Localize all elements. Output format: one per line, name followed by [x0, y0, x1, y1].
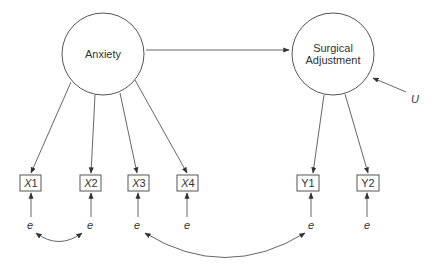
indicator-x2: X2 [80, 175, 101, 191]
indicator-y1: Y1 [297, 175, 319, 191]
anxiety-node: Anxiety [62, 13, 144, 95]
error-label-y2: e [364, 219, 370, 231]
disturbance-label: U [411, 93, 419, 105]
indicator-x1: X1 [20, 175, 41, 191]
surgical-label-line1: Surgical [313, 42, 353, 54]
indicator-x4: X4 [177, 175, 198, 191]
disturbance-arrow [373, 78, 406, 92]
error-label-x4: e [184, 219, 190, 231]
anxiety-label: Anxiety [85, 48, 122, 60]
path-diagram: Anxiety Surgical Adjustment U X1 X2 X3 X… [0, 0, 437, 266]
loading-arrow-y2 [345, 94, 368, 173]
error-label-x2: e [87, 219, 93, 231]
error-label-x3: e [134, 219, 140, 231]
loading-arrow-x4 [135, 80, 187, 173]
error-covariance-x3-y1 [145, 233, 305, 258]
indicator-x3: X3 [128, 175, 149, 191]
loading-arrow-x3 [120, 93, 137, 173]
svg-text:Y2: Y2 [361, 177, 374, 189]
error-label-y1: e [308, 219, 314, 231]
svg-text:X3: X3 [131, 177, 145, 189]
loading-arrow-y1 [313, 95, 324, 173]
error-label-x1: e [27, 219, 33, 231]
loading-arrow-x1 [31, 82, 71, 173]
surgical-label-line2: Adjustment [305, 54, 360, 66]
indicator-y2: Y2 [357, 175, 379, 191]
svg-text:X1: X1 [23, 177, 37, 189]
loading-arrow-x2 [91, 95, 95, 173]
error-covariance-x1-x2 [36, 233, 82, 242]
svg-text:X2: X2 [83, 177, 97, 189]
svg-text:Y1: Y1 [301, 177, 314, 189]
svg-text:X4: X4 [180, 177, 194, 189]
surgical-adjustment-node: Surgical Adjustment [292, 13, 374, 95]
